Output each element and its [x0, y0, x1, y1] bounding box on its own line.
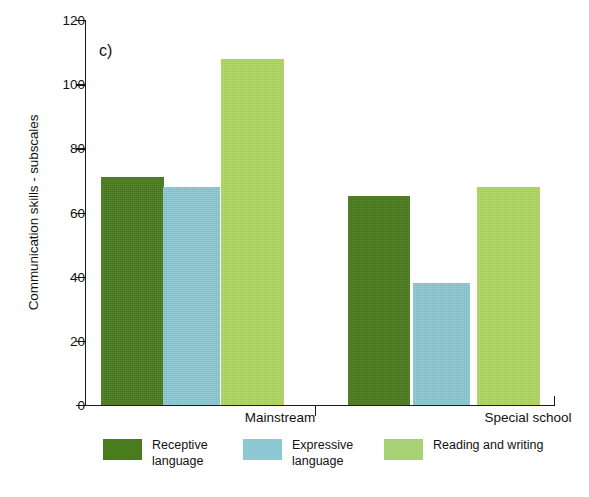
y-axis-tick-label: 120 — [45, 13, 85, 28]
x-axis-group-separator-tick — [315, 406, 316, 416]
chart-figure: Communication skills - subscales 0204060… — [0, 0, 589, 497]
y-axis-tick-label: 40 — [45, 269, 85, 284]
bar — [413, 283, 470, 405]
bar — [221, 59, 284, 406]
legend-label: Expressive language — [292, 438, 353, 469]
y-axis-tick-label: 100 — [45, 77, 85, 92]
bar — [477, 187, 540, 405]
chart-legend: Receptive languageExpressive languageRea… — [0, 438, 589, 488]
y-axis-tick-label: 80 — [45, 141, 85, 156]
x-axis-group-label: Mainstream — [245, 410, 316, 425]
legend-label: Receptive language — [152, 438, 208, 469]
legend-swatch — [243, 439, 282, 460]
legend-item[interactable]: Receptive language — [103, 438, 208, 469]
bar — [163, 187, 220, 405]
x-axis-line — [85, 405, 555, 406]
y-axis-tick-label: 60 — [45, 205, 85, 220]
legend-item[interactable]: Reading and writing — [384, 438, 544, 460]
legend-item[interactable]: Expressive language — [243, 438, 353, 469]
legend-swatch — [103, 439, 142, 460]
y-axis-tick-label: 20 — [45, 333, 85, 348]
y-axis-tick-label: 0 — [45, 398, 85, 413]
legend-label: Reading and writing — [433, 438, 544, 454]
y-axis-title: Communication skills - subscales — [26, 63, 41, 363]
plot-area — [85, 20, 555, 405]
legend-swatch — [384, 439, 423, 460]
bar — [348, 196, 410, 405]
bar — [101, 177, 164, 405]
x-axis-group-label: Special school — [484, 410, 571, 425]
